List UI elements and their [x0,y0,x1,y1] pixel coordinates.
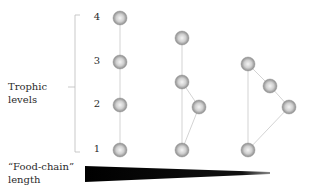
level-label-1: 1 [92,143,102,154]
species-node [175,31,189,45]
food-chain-length-wedge [85,166,270,182]
trophic-title-line1: Trophic [8,80,47,93]
feeding-link [248,107,289,150]
trophic-title-line2: levels [8,93,47,106]
species-node [175,143,189,157]
species-node [113,55,127,69]
species-node [113,11,127,25]
species-node [241,143,255,157]
species-node [113,143,127,157]
food-chain-label-line1: “Food-chain” [8,160,74,173]
species-node [113,98,127,112]
level-label-2: 2 [92,98,102,109]
food-web-nodes [113,11,296,157]
species-node [241,57,255,71]
level-label-4: 4 [92,11,102,22]
trophic-levels-bracket [68,15,80,152]
species-node [175,75,189,89]
level-label-3: 3 [92,55,102,66]
species-node [282,100,296,114]
species-node [263,79,277,93]
food-chain-length-label: “Food-chain” length [8,160,74,186]
trophic-levels-title: Trophic levels [8,80,47,106]
species-node [192,100,206,114]
food-chain-label-line2: length [8,173,74,186]
